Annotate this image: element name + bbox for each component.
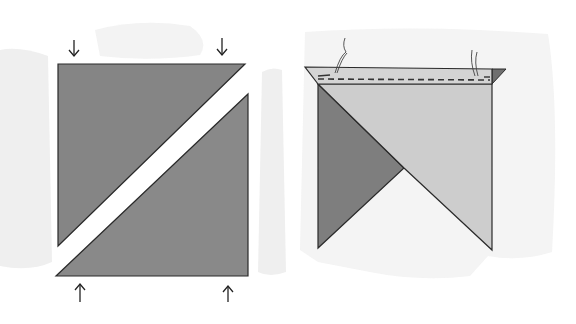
up-arrow-icon: [75, 284, 85, 302]
stitch-line-start: [318, 75, 330, 76]
left-panel: [56, 38, 248, 302]
down-arrow-icon: [217, 38, 227, 55]
down-arrow-icon: [69, 40, 79, 56]
illustration: [0, 0, 576, 324]
up-arrow-icon: [223, 286, 233, 302]
light-top-strip: [305, 67, 492, 84]
